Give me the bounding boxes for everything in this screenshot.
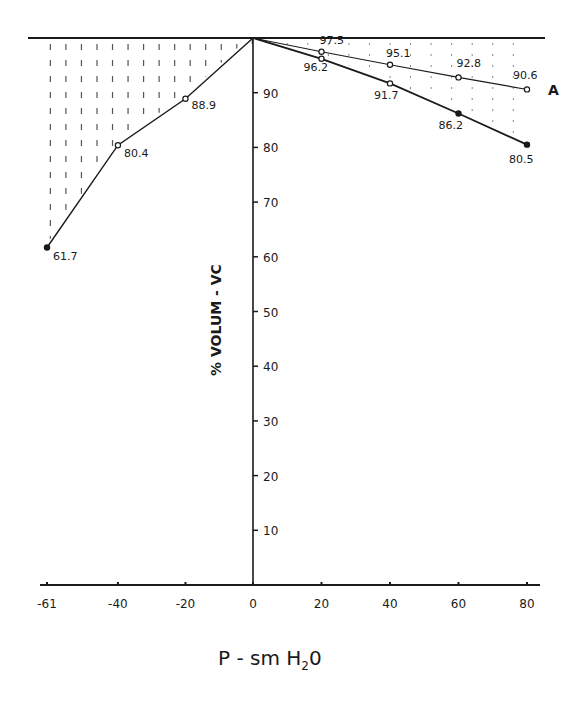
x-tick-label: -40: [108, 597, 128, 611]
chart-svg: -61-40-20020406080102030405060708090 61.…: [0, 0, 582, 706]
data-point: [115, 143, 120, 148]
svg-text:P - sm H20: P - sm H20: [218, 646, 322, 673]
y-axis-label: % VOLUM - VC: [208, 264, 224, 376]
point-label: 96.2: [304, 61, 329, 74]
y-tick-label: 40: [263, 360, 278, 374]
data-point: [524, 87, 529, 92]
data-point: [387, 62, 392, 67]
y-tick-label: 10: [263, 524, 278, 538]
data-point: [183, 96, 188, 101]
tick-labels: -61-40-20020406080102030405060708090: [37, 87, 534, 611]
y-tick-label: 90: [263, 87, 278, 101]
x-tick-label: 40: [382, 597, 397, 611]
series-line-0: [47, 38, 253, 248]
y-tick-label: 70: [263, 196, 278, 210]
point-label: 80.4: [124, 147, 149, 160]
y-tick-label: 50: [263, 306, 278, 320]
x-tick-label: -61: [37, 597, 57, 611]
x-tick-label: 80: [519, 597, 534, 611]
series-a-tag: A: [548, 82, 559, 98]
y-tick-label: 80: [263, 141, 278, 155]
data-point: [455, 110, 461, 116]
y-tick-label: 60: [263, 251, 278, 265]
point-label: 61.7: [53, 250, 78, 263]
point-label: 92.8: [457, 57, 482, 70]
x-axis-label: P - sm H20: [218, 646, 322, 673]
x-tick-label: -20: [176, 597, 196, 611]
data-point: [456, 75, 461, 80]
data-point: [524, 141, 530, 147]
point-label: 97.5: [320, 34, 345, 47]
y-tick-label: 20: [263, 470, 278, 484]
point-label: 86.2: [439, 119, 464, 132]
x-tick-label: 60: [451, 597, 466, 611]
point-label: 88.9: [191, 99, 216, 112]
point-label: 95.1: [386, 47, 411, 60]
point-label: 90.6: [513, 69, 538, 82]
axes: [28, 38, 545, 585]
point-label: 80.5: [509, 153, 534, 166]
data-point: [319, 49, 324, 54]
point-label: 91.7: [374, 89, 399, 102]
y-tick-label: 30: [263, 415, 278, 429]
point-labels: 61.780.488.997.595.192.890.696.291.786.2…: [53, 34, 538, 263]
hatch-shading: [50, 35, 513, 239]
x-tick-label: 20: [314, 597, 329, 611]
data-point: [387, 81, 392, 86]
x-tick-label: 0: [249, 597, 257, 611]
data-point: [44, 244, 50, 250]
